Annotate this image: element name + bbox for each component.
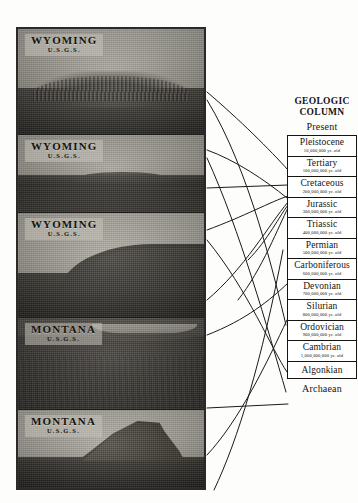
era-row-tertiary: Tertiary 100,000,000 yr. old: [288, 157, 356, 178]
photo-caption-1: WYOMING U.S.G.S.: [25, 34, 103, 56]
era-row-pleistocene: Pleistocene 10,000,000 yr. old: [288, 136, 356, 157]
era-name: Ordovician: [288, 322, 356, 333]
era-row-permian: Permian 500,000,000 yr. old: [288, 239, 356, 260]
geologic-column: GEOLOGIC COLUMN Present Pleistocene 10,0…: [287, 96, 357, 397]
photo-place-4: MONTANA: [31, 324, 96, 335]
era-name: Cretaceous: [288, 178, 356, 189]
era-box-list: Pleistocene 10,000,000 yr. old Tertiary …: [287, 135, 357, 379]
era-name: Pleistocene: [288, 137, 356, 148]
era-name: Devonian: [288, 281, 356, 292]
photo-agency-3: U.S.G.S.: [31, 231, 97, 238]
era-name: Triassic: [288, 219, 356, 230]
era-row-cambrian: Cambrian 1,000,000,000 yr. old: [288, 341, 356, 362]
era-row-devonian: Devonian 700,000,000 yr. old: [288, 280, 356, 301]
era-age: 1,000,000,000 yr. old: [288, 353, 356, 359]
era-row-triassic: Triassic 400,000,000 yr. old: [288, 218, 356, 239]
photo-agency-4: U.S.G.S.: [31, 336, 96, 343]
photo-panel-2: WYOMING U.S.G.S.: [18, 135, 204, 213]
era-age: 900,000,000 yr. old: [288, 332, 356, 338]
era-age: 100,000,000 yr. old: [288, 168, 356, 174]
era-age: 300,000,000 yr. old: [288, 209, 356, 215]
era-row-ordovician: Ordovician 900,000,000 yr. old: [288, 321, 356, 342]
era-age: 600,000,000 yr. old: [288, 271, 356, 277]
photo-agency-1: U.S.G.S.: [31, 47, 97, 54]
era-age: 800,000,000 yr. old: [288, 312, 356, 318]
column-title: GEOLOGIC COLUMN: [287, 96, 357, 117]
photo-stack: WYOMING U.S.G.S. WYOMING U.S.G.S.: [16, 27, 206, 490]
photo-panel-3: WYOMING U.S.G.S.: [18, 213, 204, 318]
era-name: Algonkian: [288, 365, 356, 376]
era-row-cretaceous: Cretaceous 200,000,000 yr. old: [288, 177, 356, 198]
era-age: 500,000,000 yr. old: [288, 250, 356, 256]
era-row-algonkian: Algonkian: [288, 362, 356, 379]
photo-agency-2: U.S.G.S.: [31, 153, 97, 160]
photo-caption-4: MONTANA U.S.G.S.: [25, 323, 102, 345]
column-bottom-label: Archaean: [287, 379, 357, 397]
era-row-carboniferous: Carboniferous 600,000,000 yr. old: [288, 259, 356, 280]
era-age: 400,000,000 yr. old: [288, 230, 356, 236]
era-name: Jurassic: [288, 199, 356, 210]
era-row-jurassic: Jurassic 300,000,000 yr. old: [288, 198, 356, 219]
era-name: Carboniferous: [288, 260, 356, 271]
photo-place-2: WYOMING: [31, 141, 97, 152]
era-age: 700,000,000 yr. old: [288, 291, 356, 297]
photo-panel-4: MONTANA U.S.G.S.: [18, 318, 204, 410]
era-row-silurian: Silurian 800,000,000 yr. old: [288, 300, 356, 321]
photo-caption-3: WYOMING U.S.G.S.: [25, 218, 103, 240]
photo-place-1: WYOMING: [31, 35, 97, 46]
photo-place-3: WYOMING: [31, 219, 97, 230]
photo-panel-1: WYOMING U.S.G.S.: [18, 29, 204, 135]
photo-caption-5: MONTANA U.S.G.S.: [25, 415, 102, 437]
era-age: 10,000,000 yr. old: [288, 148, 356, 154]
figure-stage: WYOMING U.S.G.S. WYOMING U.S.G.S.: [0, 0, 358, 503]
photo-agency-5: U.S.G.S.: [31, 428, 96, 435]
photo-caption-2: WYOMING U.S.G.S.: [25, 140, 103, 162]
column-title-line1: GEOLOGIC: [287, 96, 357, 107]
era-name: Cambrian: [288, 342, 356, 353]
photo-place-5: MONTANA: [31, 416, 96, 427]
column-top-label: Present: [287, 117, 357, 135]
column-title-line2: COLUMN: [287, 107, 357, 118]
photo-panel-5: MONTANA U.S.G.S.: [18, 410, 204, 488]
era-name: Permian: [288, 240, 356, 251]
era-name: Silurian: [288, 301, 356, 312]
era-name: Tertiary: [288, 158, 356, 169]
era-age: 200,000,000 yr. old: [288, 189, 356, 195]
